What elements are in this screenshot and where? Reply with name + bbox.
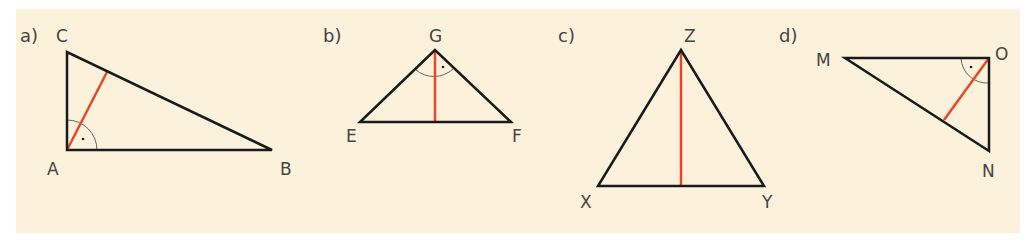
- altitude-a: [67, 72, 107, 150]
- figure-b: b) G E F: [323, 25, 522, 146]
- vertex-label-n: N: [982, 161, 995, 181]
- vertex-label-f: F: [512, 126, 522, 146]
- triangles-diagram: a) C A B b) G E F c) Z X Y d) M O N: [0, 0, 1029, 245]
- figure-d: d) M O N: [779, 25, 1008, 181]
- figure-c: c) Z X Y: [558, 25, 773, 212]
- right-angle-dot-a: [82, 138, 85, 141]
- altitude-d: [944, 58, 989, 120]
- right-angle-dot-b: [442, 66, 445, 69]
- vertex-label-o: O: [995, 44, 1008, 64]
- part-label-a: a): [20, 25, 38, 46]
- part-label-c: c): [558, 25, 575, 46]
- vertex-label-g: G: [429, 26, 442, 46]
- vertex-label-y: Y: [761, 192, 773, 212]
- vertex-label-x: X: [580, 192, 592, 212]
- part-label-d: d): [779, 25, 797, 46]
- right-angle-dot-d: [970, 66, 973, 69]
- part-label-b: b): [323, 25, 341, 46]
- vertex-label-a: A: [47, 159, 59, 179]
- vertex-label-b: B: [280, 159, 292, 179]
- vertex-label-c: C: [56, 26, 68, 46]
- figure-a: a) C A B: [20, 25, 292, 179]
- vertex-label-m: M: [816, 50, 831, 70]
- triangle-abc: [67, 52, 272, 150]
- vertex-label-z: Z: [684, 26, 696, 46]
- vertex-label-e: E: [346, 126, 357, 146]
- right-angle-arc-a: [67, 120, 97, 150]
- triangle-mno: [845, 58, 989, 151]
